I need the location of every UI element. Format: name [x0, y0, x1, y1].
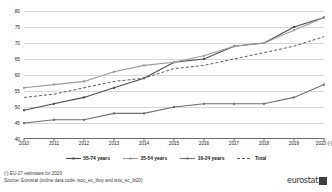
- y-tick-label: 80: [15, 9, 20, 14]
- data-point: [263, 42, 265, 44]
- y-tick-label: 45: [15, 121, 20, 126]
- x-tick-mark: [264, 138, 265, 141]
- x-tick-label: 2018: [259, 141, 269, 146]
- legend-label: Total: [255, 155, 266, 161]
- data-point: [203, 103, 205, 105]
- data-point: [23, 87, 25, 89]
- data-point: [203, 58, 205, 60]
- series-line-35-54-years: [24, 17, 324, 87]
- x-tick-label: 2010: [19, 141, 29, 146]
- data-point: [53, 84, 55, 86]
- legend-item[interactable]: 16-24 years: [180, 155, 224, 162]
- x-tick-mark: [144, 138, 145, 141]
- x-tick-label: 2012: [79, 141, 89, 146]
- x-tick-label: 2011: [49, 141, 59, 146]
- y-tick-label: 75: [15, 25, 20, 30]
- y-tick-label: 70: [15, 41, 20, 46]
- y-tick-label: 50: [15, 105, 20, 110]
- chart-footer: (¹) EU-27 estimates for 2020 Source: Eur…: [4, 170, 254, 184]
- series-line-55-74-years: [24, 17, 324, 110]
- x-tick-label: 2019: [289, 141, 299, 146]
- data-point: [83, 119, 85, 121]
- legend-label: 35-54 years: [140, 155, 167, 161]
- data-point: [293, 96, 295, 98]
- legend-label: 55-74 years: [83, 155, 110, 161]
- data-point: [173, 106, 175, 108]
- y-tick-label: 55: [15, 89, 20, 94]
- data-point: [113, 112, 115, 114]
- legend-marker-icon: [66, 155, 81, 162]
- y-tick-label: 65: [15, 57, 20, 62]
- plot-area: [24, 11, 324, 139]
- x-tick-label: 2014: [139, 141, 149, 146]
- x-tick-mark: [24, 138, 25, 141]
- eurostat-logo: eurostat: [287, 176, 327, 185]
- data-point: [203, 55, 205, 57]
- data-point: [173, 61, 175, 63]
- x-tick-label: 2013: [109, 141, 119, 146]
- footnote-source: Source: Eurostat (online data code: isoc…: [4, 177, 254, 184]
- eurostat-logo-square: [319, 177, 327, 185]
- data-point: [323, 84, 325, 86]
- eurostat-wordmark: eurostat: [287, 176, 318, 185]
- legend-item[interactable]: Total: [237, 155, 266, 162]
- data-point: [143, 64, 145, 66]
- data-point: [233, 45, 235, 47]
- x-tick-mark: [174, 138, 175, 141]
- x-tick-label: 2015: [169, 141, 179, 146]
- chart-legend: 55-74 years35-54 years16-24 yearsTotal: [0, 152, 332, 164]
- x-tick-label: 2016: [199, 141, 209, 146]
- series-line-16-24-years: [24, 85, 324, 123]
- series-layer: [24, 11, 324, 139]
- data-point: [293, 26, 295, 28]
- legend-item[interactable]: 35-54 years: [123, 155, 167, 162]
- footnote-estimates: (¹) EU-27 estimates for 2020: [4, 170, 254, 177]
- data-point: [263, 103, 265, 105]
- legend-marker-icon: [123, 155, 138, 162]
- x-tick-mark: [294, 138, 295, 141]
- data-point: [23, 122, 25, 124]
- x-tick-mark: [204, 138, 205, 141]
- y-axis-labels: 404550556065707580: [0, 11, 20, 139]
- x-tick-mark: [54, 138, 55, 141]
- x-tick-mark: [114, 138, 115, 141]
- legend-label: 16-24 years: [198, 155, 225, 161]
- y-tick-label: 60: [15, 73, 20, 78]
- data-point: [83, 96, 85, 98]
- x-tick-label: 2020 (¹): [316, 141, 332, 146]
- data-point: [23, 109, 25, 111]
- data-point: [53, 119, 55, 121]
- data-point: [323, 16, 325, 18]
- chart-container: 404550556065707580 201020112012201320142…: [0, 0, 332, 192]
- legend-item[interactable]: 55-74 years: [66, 155, 110, 162]
- data-point: [293, 29, 295, 31]
- x-tick-label: 2017: [229, 141, 239, 146]
- data-point: [83, 80, 85, 82]
- x-tick-mark: [324, 138, 325, 141]
- data-point: [113, 87, 115, 89]
- series-line-total: [24, 37, 324, 98]
- data-point: [53, 103, 55, 105]
- x-tick-mark: [234, 138, 235, 141]
- data-point: [233, 103, 235, 105]
- x-axis-labels: 2010201120122013201420152016201720182019…: [24, 141, 324, 151]
- x-tick-mark: [84, 138, 85, 141]
- data-point: [143, 112, 145, 114]
- data-point: [113, 71, 115, 73]
- legend-marker-icon: [237, 155, 252, 162]
- legend-marker-icon: [180, 155, 195, 162]
